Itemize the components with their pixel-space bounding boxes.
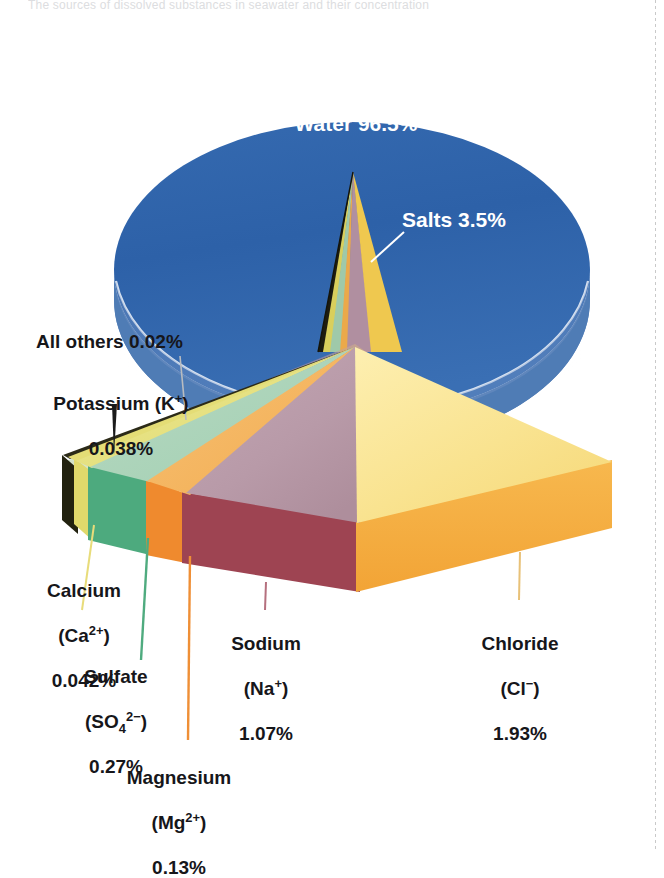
label-magnesium-formula-post: ) [200,812,206,833]
label-magnesium-name: Magnesium [127,767,232,788]
label-sulfate-count: 4 [119,721,126,736]
label-calcium-name: Calcium [47,580,121,601]
label-sulfate-formula-post: ) [141,711,147,732]
label-magnesium-charge: 2+ [185,810,200,825]
label-potassium-close: ) [182,393,188,414]
label-chloride-formula-post: ) [533,678,539,699]
label-chloride: Chloride (Cl−) 1.93% [450,611,590,745]
chloride-leader [519,552,520,600]
label-calcium-charge: 2+ [89,623,104,638]
label-magnesium-formula-pre: (Mg [152,812,186,833]
label-water: Water 96.5% [276,112,436,137]
sulfate-leader [188,556,190,740]
label-chloride-name: Chloride [481,633,558,654]
label-potassium: Potassium (K+) 0.038% [26,371,216,461]
label-sodium-formula-pre: (Na [244,678,275,699]
label-chloride-value: 1.93% [493,723,547,744]
label-salts: Salts 3.5% [402,208,582,233]
label-magnesium-value: 0.13% [152,857,206,878]
label-magnesium: Magnesium (Mg2+) 0.13% [74,745,284,878]
label-potassium-value: 0.038% [89,438,153,459]
label-all-others: All others 0.02% [36,331,266,353]
label-sodium-charge: + [274,676,282,691]
label-sulfate-name: Sulfate [84,666,147,687]
label-sodium-formula-post: ) [282,678,288,699]
label-sodium-name: Sodium [231,633,301,654]
label-sulfate-charge: 2− [126,709,141,724]
label-sulfate-formula-pre: (SO [85,711,119,732]
label-chloride-formula-pre: (Cl [500,678,525,699]
label-sodium-value: 1.07% [239,723,293,744]
sodium-leader [265,582,266,610]
label-potassium-name: Potassium (K [53,393,174,414]
label-sodium: Sodium (Na+) 1.07% [196,611,336,745]
